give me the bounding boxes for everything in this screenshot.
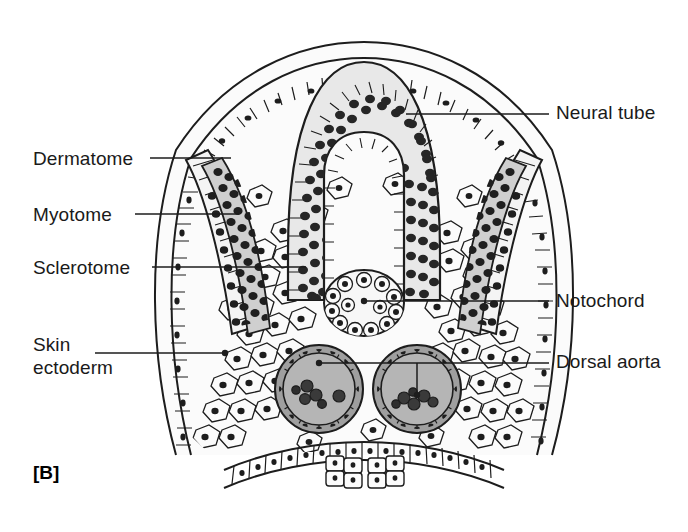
panel-label: [B] <box>33 462 59 484</box>
label-dorsal-aorta: Dorsal aorta <box>556 350 661 373</box>
skin-ectoderm-dot <box>222 350 228 356</box>
label-neural-tube: Neural tube <box>556 101 655 124</box>
label-myotome: Myotome <box>33 203 112 226</box>
label-dermatome: Dermatome <box>33 147 133 170</box>
notochord-dot <box>361 298 367 304</box>
aorta-right-dot <box>414 392 420 398</box>
aorta-left-dot <box>316 360 322 366</box>
figure-panel: DermatomeMyotomeSclerotomeSkin ectoderm … <box>0 0 688 532</box>
dorsal-aorta-left <box>275 345 363 433</box>
label-skin-ectoderm: Skin ectoderm <box>33 333 113 379</box>
label-notochord: Notochord <box>556 289 645 312</box>
label-sclerotome: Sclerotome <box>33 256 130 279</box>
